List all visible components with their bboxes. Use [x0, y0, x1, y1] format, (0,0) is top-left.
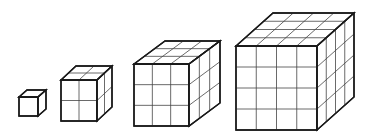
cube-1: [19, 90, 46, 116]
cube-sequence-figure: [0, 0, 371, 140]
cubes-diagram: [0, 0, 371, 140]
cube-3: [134, 41, 220, 126]
front-face: [19, 97, 38, 116]
cube-4: [236, 13, 354, 130]
cube-2: [61, 66, 112, 121]
front-face: [134, 64, 189, 126]
